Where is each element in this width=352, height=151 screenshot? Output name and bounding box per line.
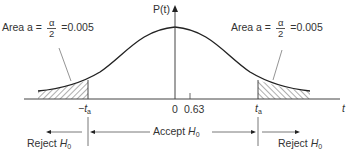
left-critical-label: −ta <box>78 102 91 115</box>
observed-value-label: 0.63 <box>184 103 204 115</box>
accept-label: Accept H0 <box>153 125 200 138</box>
reject-right-arrow-icon <box>295 130 300 134</box>
accept-left-arrow-icon <box>90 130 95 134</box>
x-axis-label: t <box>342 102 345 114</box>
left-area-annotation: Area a = α2 =0.005 <box>2 18 94 39</box>
alpha-half-fraction: α2 <box>276 18 286 39</box>
accept-right-arrow-icon <box>251 130 256 134</box>
origin-label: 0 <box>172 103 178 115</box>
alpha-half-fraction: α2 <box>47 18 57 39</box>
right-area-annotation: Area a = α2 =0.005 <box>231 18 323 39</box>
reject-right-label: Reject H0 <box>278 137 322 150</box>
right-critical-label: ta <box>255 102 262 115</box>
reject-left-arrow-icon <box>46 130 51 134</box>
y-axis-label: P(t) <box>153 3 170 15</box>
reject-left-label: Reject H0 <box>27 137 71 150</box>
y-axis-arrow-icon <box>172 5 178 12</box>
